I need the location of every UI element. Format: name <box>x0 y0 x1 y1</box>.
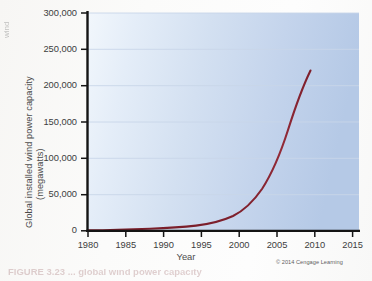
xtick-label-1990: 1990 <box>144 240 184 250</box>
ytick-label-200000: 200,000 <box>2 80 77 90</box>
xtick-label-2000: 2000 <box>219 240 259 250</box>
xtick-label-2015: 2015 <box>333 240 372 250</box>
xtick-label-2010: 2010 <box>295 240 335 250</box>
figure-caption-text: FIGURE 3.23 ... global wind power capaci… <box>8 269 202 277</box>
ytick-label-50000: 50,000 <box>2 189 77 199</box>
ytick-label-250000: 250,000 <box>2 44 77 54</box>
xtick-label-2005: 2005 <box>257 240 297 250</box>
chart-svg <box>0 0 372 281</box>
xtick-label-1995: 1995 <box>181 240 221 250</box>
ytick-label-0: 0 <box>2 225 77 235</box>
figure-container: wind <box>0 0 372 281</box>
ytick-label-100000: 100,000 <box>2 153 77 163</box>
xtick-label-1985: 1985 <box>106 240 146 250</box>
copyright-credit: © 2014 Cengage Learning <box>276 259 343 265</box>
xtick-label-1980: 1980 <box>68 240 108 250</box>
ytick-label-150000: 150,000 <box>2 117 77 127</box>
ytick-label-300000: 300,000 <box>2 8 77 18</box>
figure-caption-strip: FIGURE 3.23 ... global wind power capaci… <box>8 269 218 281</box>
wind-capacity-chart: Global installed wind power capacity (me… <box>0 0 372 281</box>
